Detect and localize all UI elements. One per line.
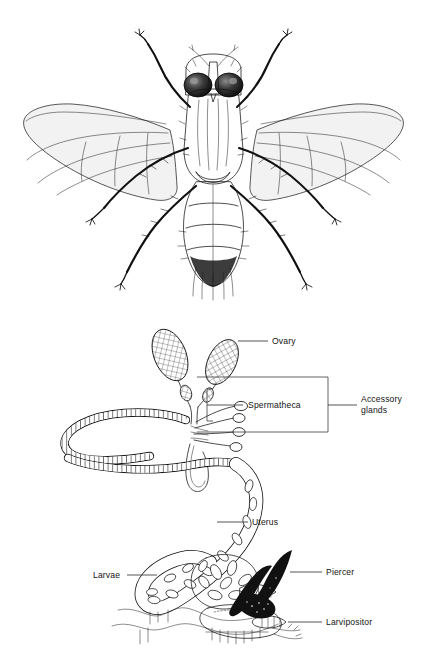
- fly-right-wing: [250, 104, 403, 200]
- piercer-structure: [229, 550, 292, 628]
- fly-abdomen: [178, 182, 249, 300]
- label-larvipositor: Larvipositor: [326, 617, 372, 627]
- fly-left-wing: [24, 104, 177, 200]
- female-reproductive-tract-diagram: Ovary Spermatheca Accessory glands Uteru…: [0, 310, 427, 670]
- label-piercer: Piercer: [326, 567, 354, 577]
- fly-head: [184, 45, 243, 102]
- label-accessory-glands-line1: Accessory: [361, 394, 403, 404]
- adult-tsetse-fly-illustration: [0, 0, 427, 310]
- anatomy-figure: Ovary Spermatheca Accessory glands Uteru…: [0, 0, 427, 670]
- label-ovary: Ovary: [272, 336, 296, 346]
- label-spermatheca: Spermatheca: [248, 400, 301, 410]
- fly-thorax: [179, 89, 248, 184]
- label-larvae: Larvae: [93, 570, 120, 580]
- spermatheca-group: [191, 401, 248, 451]
- ovary-pair: [145, 324, 245, 424]
- label-uterus: Uterus: [252, 517, 278, 527]
- label-accessory-glands-line2: glands: [361, 405, 387, 415]
